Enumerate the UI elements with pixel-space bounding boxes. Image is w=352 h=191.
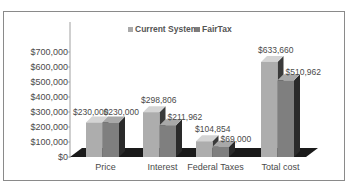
y-tick-label: $300,000 bbox=[30, 107, 68, 117]
legend-label-fairtax: FairTax bbox=[202, 24, 232, 34]
x-category-label: Federal Taxes bbox=[187, 162, 244, 172]
data-label: $633,660 bbox=[258, 45, 294, 55]
legend-label-current-system: Current System bbox=[135, 24, 199, 34]
y-tick-label: $200,000 bbox=[30, 122, 68, 132]
x-category-label: Interest bbox=[147, 162, 178, 172]
y-tick-label: $400,000 bbox=[30, 92, 68, 102]
legend-swatch-fairtax bbox=[195, 27, 200, 32]
y-tick-label: $500,000 bbox=[30, 77, 68, 87]
data-label: $211,962 bbox=[168, 112, 203, 122]
bar-fairtax-interest bbox=[160, 119, 183, 157]
legend: Current System FairTax bbox=[128, 24, 232, 34]
y-tick-label: $600,000 bbox=[30, 62, 68, 72]
data-label: $69,000 bbox=[221, 134, 252, 144]
bar-chart: Current System FairTax $0$100,000$200,00… bbox=[0, 0, 352, 191]
y-axis-ticks: $0$100,000$200,000$300,000$400,000$500,0… bbox=[30, 47, 70, 162]
x-category-label: Price bbox=[95, 162, 116, 172]
bar-fairtax-total-cost bbox=[278, 74, 301, 157]
bar-fairtax-price bbox=[103, 117, 126, 158]
data-label: $230,000 bbox=[104, 107, 140, 117]
data-label: $510,962 bbox=[286, 67, 322, 77]
data-label: $298,806 bbox=[141, 95, 177, 105]
y-tick-label: $100,000 bbox=[30, 137, 68, 147]
bars: $230,000$230,000$298,806$211,962$104,854… bbox=[73, 45, 321, 157]
category-labels: PriceInterestFederal TaxesTotal cost bbox=[95, 162, 300, 172]
x-category-label: Total cost bbox=[261, 162, 300, 172]
y-tick-label: $700,000 bbox=[30, 47, 68, 57]
y-tick-label: $0 bbox=[58, 152, 68, 162]
legend-swatch-current-system bbox=[128, 27, 133, 32]
